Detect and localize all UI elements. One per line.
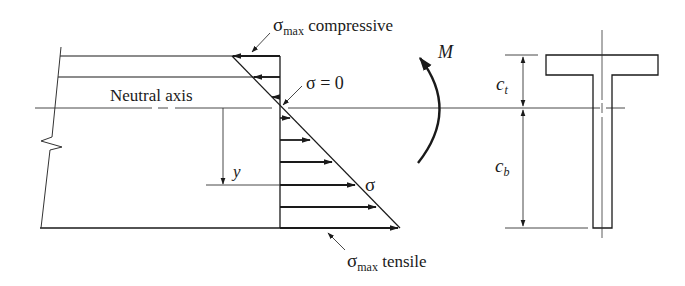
sigma-max-compressive-callout: σmax compressive	[252, 14, 393, 52]
moment-label: M	[437, 42, 454, 62]
sigma-symbol: σ	[273, 14, 283, 35]
sigma-symbol: σ	[347, 250, 357, 271]
sigma-label: σ	[365, 174, 375, 195]
moment-arrow-icon	[418, 58, 440, 163]
sigma-max-tensile-callout: σmax tensile	[328, 233, 427, 274]
bending-stress-diagram: Neutral axis σmax compressive σ = 0 σ σm…	[0, 0, 685, 286]
sigma-zero-callout: σ = 0	[283, 73, 344, 105]
beam-break-line	[41, 47, 62, 228]
svg-text:σmax compressive: σmax compressive	[273, 14, 393, 38]
svg-text:σmax tensile: σmax tensile	[347, 250, 427, 274]
t-cross-section	[546, 30, 658, 238]
beam-side-view	[40, 47, 280, 228]
bending-moment: M	[418, 42, 454, 163]
y-distance-dimension: y	[206, 108, 280, 185]
c-top-label: ct	[496, 73, 508, 97]
c-dimensions: ct cb	[495, 55, 588, 228]
c-bottom-label: cb	[495, 155, 509, 179]
neutral-axis-label: Neutral axis	[110, 86, 193, 105]
y-label: y	[231, 162, 241, 181]
sigma-zero-label: σ = 0	[306, 73, 344, 93]
